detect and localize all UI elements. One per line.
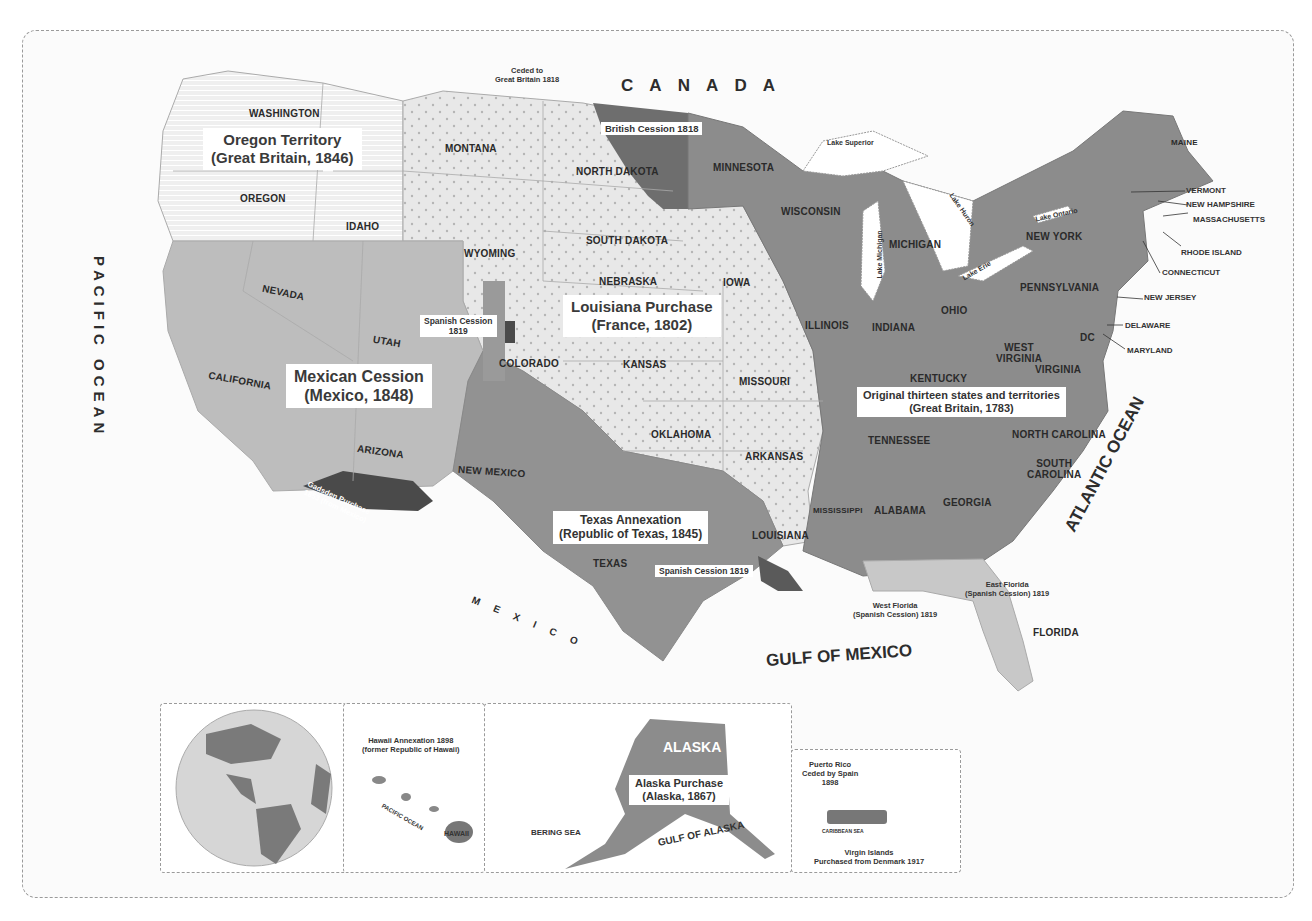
state-massachusetts: MASSACHUSETTS <box>1193 215 1265 224</box>
inset-hawaii: Hawaii Annexation 1898 (former Republic … <box>343 703 485 873</box>
map-frame: PACIFIC OCEAN ATLANTIC OCEAN GULF OF MEX… <box>22 30 1294 898</box>
hawaii-annexation-label: Hawaii Annexation 1898 (former Republic … <box>362 736 460 754</box>
inset-globe <box>160 703 348 873</box>
state-new-jersey: NEW JERSEY <box>1144 293 1196 302</box>
state-maryland: MARYLAND <box>1127 346 1172 355</box>
hawaii-label: HAWAII <box>444 830 469 837</box>
state-vermont: VERMONT <box>1186 186 1226 195</box>
inset-puerto-rico: Puerto Rico Ceded by Spain 1898 CARIBBEA… <box>791 749 961 873</box>
hawaii-islands <box>344 704 484 872</box>
puerto-rico-label: Puerto Rico Ceded by Spain 1898 <box>802 760 858 787</box>
state-rhode-island: RHODE ISLAND <box>1181 248 1242 257</box>
globe-icon <box>161 704 347 872</box>
lake-superior-label: Lake Superior <box>827 139 874 146</box>
lake-michigan-label: Lake Michigan <box>876 230 883 278</box>
virgin-islands-label: Virgin Islands Purchased from Denmark 19… <box>814 848 924 866</box>
state-new-hampshire: NEW HAMPSHIRE <box>1186 200 1255 209</box>
state-connecticut: CONNECTICUT <box>1162 268 1220 277</box>
alaska-label: ALASKA <box>663 739 721 755</box>
inset-alaska: ALASKA Alaska Purchase (Alaska, 1867) BE… <box>484 703 792 873</box>
alaska-purchase-label: Alaska Purchase (Alaska, 1867) <box>629 775 729 805</box>
state-delaware: DELAWARE <box>1125 321 1170 330</box>
